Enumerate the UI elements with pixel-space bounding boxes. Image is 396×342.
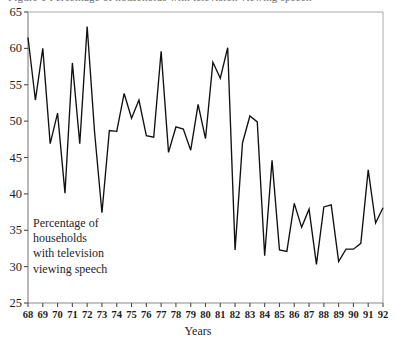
y-axis-tick-label: 25	[0, 297, 22, 310]
y-axis-tick-label: 40	[0, 188, 22, 201]
figure-container: Figure 1 Percentage of households with t…	[0, 0, 396, 342]
y-axis-tick-label: 55	[0, 79, 22, 92]
y-axis-tick-label: 45	[0, 152, 22, 165]
y-axis-tick-label: 30	[0, 261, 22, 274]
y-axis-tick-label: 50	[0, 115, 22, 128]
series-annotation-label: Percentage of households with television…	[33, 216, 107, 277]
line-chart	[0, 0, 396, 342]
y-axis-tick-label: 60	[0, 42, 22, 55]
y-axis-tick-label: 65	[0, 6, 22, 19]
y-axis-tick-label: 35	[0, 224, 22, 237]
x-axis-title: Years	[0, 324, 396, 339]
x-axis-tick-label: 92	[373, 309, 393, 320]
